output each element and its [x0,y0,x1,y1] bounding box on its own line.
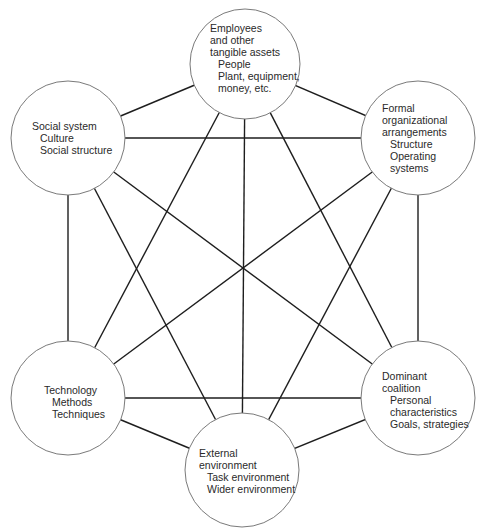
dominant-title-line-2: coalition [382,382,469,394]
technology-item-methods: Methods [44,396,105,408]
dominant-item-goals: Goals, strategies [382,418,469,430]
node-label-technology: Technology Methods Techniques [44,384,105,420]
employees-item-plant: Plant, equipment, [210,70,300,82]
formal-item-systems: systems [382,162,447,174]
external-title-line-1: External [199,447,295,459]
external-item-task: Task environment [199,471,295,483]
external-item-wider: Wider environment [199,483,295,495]
social-title: Social system [32,120,112,132]
formal-title-line-1: Formal [382,102,447,114]
node-label-dominant-coalition: Dominant coalition Personal characterist… [382,370,469,430]
dominant-title-line-1: Dominant [382,370,469,382]
employees-title-line-3: tangible assets [210,46,300,58]
external-title-line-2: environment [199,459,295,471]
node-label-employees: Employees and other tangible assets Peop… [210,22,300,94]
dominant-item-personal: Personal [382,394,469,406]
formal-item-structure: Structure [382,138,447,150]
node-label-external-environment: External environment Task environment Wi… [199,447,295,495]
employees-title-line-2: and other [210,34,300,46]
technology-title: Technology [44,384,105,396]
formal-item-operating: Operating [382,150,447,162]
employees-item-people: People [210,58,300,70]
formal-title-line-3: arrangements [382,126,447,138]
social-item-structure: Social structure [32,144,112,156]
dominant-item-characteristics: characteristics [382,406,469,418]
formal-title-line-2: organizational [382,114,447,126]
employees-item-money: money, etc. [210,82,300,94]
node-label-formal-arrangements: Formal organizational arrangements Struc… [382,102,447,174]
social-item-culture: Culture [32,132,112,144]
node-label-social-system: Social system Culture Social structure [32,120,112,156]
employees-title-line-1: Employees [210,22,300,34]
technology-item-techniques: Techniques [44,408,105,420]
